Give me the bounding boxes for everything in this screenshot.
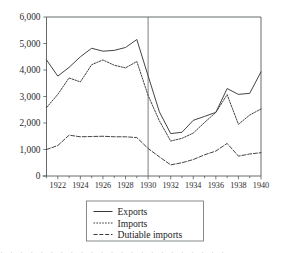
y-tick-label: 6,000 [19,12,40,22]
legend-label-imports: Imports [118,218,148,229]
series-line-dutiable-imports [47,135,262,165]
series-line-exports [47,40,262,134]
y-tick-label: 4,000 [19,65,40,75]
y-tick-label: 2,000 [19,118,40,128]
x-tick-label: 1940 [253,181,269,190]
page-footer-fragment: · · · · · · · · · · · · · · · · · · · · … [0,248,283,253]
figure-container: 01,0002,0003,0004,0005,0006,000192219241… [0,0,283,253]
legend-label-exports: Exports [118,206,148,217]
legend-label-dutiable-imports: Dutiable imports [118,229,183,240]
x-tick-label: 1938 [230,181,246,190]
y-tick-label: 5,000 [19,39,40,49]
x-tick-label: 1934 [185,181,201,190]
y-tick-label: 0 [36,171,41,181]
x-tick-label: 1922 [50,181,66,190]
x-tick-label: 1930 [140,181,156,190]
x-tick-label: 1936 [208,181,224,190]
y-tick-label: 3,000 [19,92,40,102]
x-tick-label: 1928 [117,181,133,190]
x-tick-label: 1932 [162,181,178,190]
x-tick-label: 1924 [72,181,88,190]
series-line-imports [47,60,262,141]
x-tick-label: 1926 [95,181,111,190]
y-tick-label: 1,000 [19,145,40,155]
line-chart: 01,0002,0003,0004,0005,0006,000192219241… [0,0,283,253]
